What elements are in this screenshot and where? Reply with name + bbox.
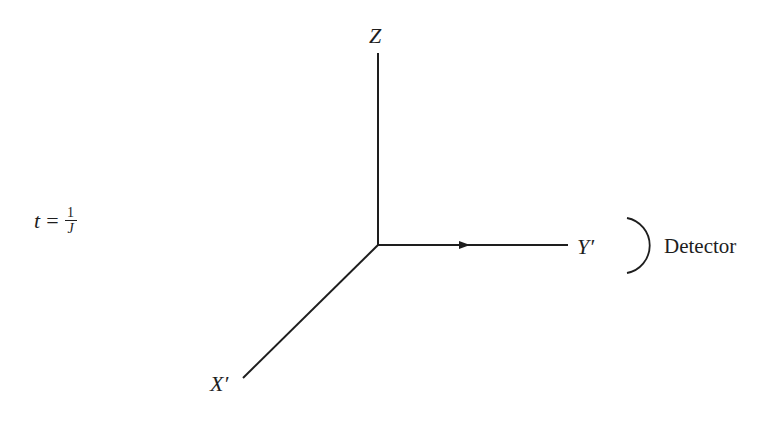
detector-label: Detector (664, 236, 736, 257)
x-axis-label: X′ (210, 373, 228, 395)
fraction-numerator: 1 (67, 206, 74, 220)
equation-variable: t (34, 210, 40, 232)
y-axis-direction-arrow (459, 241, 470, 249)
x-axis (243, 245, 378, 378)
detector-arc (627, 218, 650, 273)
z-axis-label: Z (369, 25, 381, 47)
fraction-denominator: J (67, 221, 73, 236)
time-equation: t = 1 J (34, 206, 77, 236)
y-axis-label: Y′ (577, 236, 594, 258)
equation-equals: = (46, 210, 58, 232)
coordinate-axes-diagram (0, 0, 784, 426)
equation-fraction: 1 J (65, 206, 77, 236)
